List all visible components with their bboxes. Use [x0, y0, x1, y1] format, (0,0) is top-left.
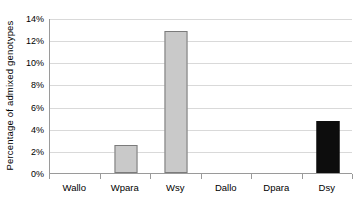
- x-tick-label-dsy: Dsy: [319, 182, 335, 193]
- x-axis-tick: [49, 174, 50, 179]
- bar-slot: [303, 19, 354, 173]
- y-tick-label: 8%: [31, 80, 44, 90]
- x-axis-tick: [150, 174, 151, 179]
- y-axis-title: Percentage of admixed genotypes: [0, 0, 18, 190]
- x-axis-tick: [100, 174, 101, 179]
- y-tick-label: 12%: [26, 36, 44, 46]
- bar-wsy[interactable]: [165, 31, 188, 173]
- x-axis-tick: [352, 174, 353, 179]
- x-tick-label-dallo: Dallo: [215, 182, 237, 193]
- x-tick-label-wsy: Wsy: [166, 182, 184, 193]
- bars-layer: [50, 19, 352, 173]
- bar-wpara[interactable]: [114, 145, 137, 173]
- bar-slot: [101, 19, 152, 173]
- y-tick-label: 0%: [31, 169, 44, 179]
- x-axis-tick: [251, 174, 252, 179]
- x-axis-tick: [302, 174, 303, 179]
- y-tick-label: 14%: [26, 14, 44, 24]
- x-tick-label-wpara: Wpara: [111, 182, 139, 193]
- bar-dsy[interactable]: [316, 121, 339, 173]
- x-tick-label-wallo: Wallo: [63, 182, 86, 193]
- x-axis-tick: [201, 174, 202, 179]
- bar-chart-figure: Percentage of admixed genotypes 0%2%4%6%…: [0, 0, 358, 208]
- y-tick-label: 2%: [31, 147, 44, 157]
- y-axis-title-label: Percentage of admixed genotypes: [4, 20, 15, 170]
- plot-area: [49, 19, 352, 174]
- y-tick-label: 6%: [31, 103, 44, 113]
- y-tick-label: 4%: [31, 125, 44, 135]
- bar-slot: [202, 19, 253, 173]
- bar-slot: [252, 19, 303, 173]
- bar-slot: [151, 19, 202, 173]
- y-tick-label: 10%: [26, 58, 44, 68]
- y-axis-tick-labels: 0%2%4%6%8%10%12%14%: [18, 0, 48, 190]
- x-axis-tick-labels: WalloWparaWsyDalloDparaDsy: [49, 182, 352, 202]
- bar-slot: [50, 19, 101, 173]
- x-tick-label-dpara: Dpara: [263, 182, 289, 193]
